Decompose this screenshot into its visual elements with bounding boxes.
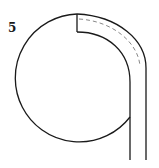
strip-outer-edge [77,14,146,160]
circle-outline [15,14,130,142]
pattern-diagram [0,0,159,168]
strip-inner-edge [77,32,130,160]
stitch-dashed-line [79,19,140,66]
